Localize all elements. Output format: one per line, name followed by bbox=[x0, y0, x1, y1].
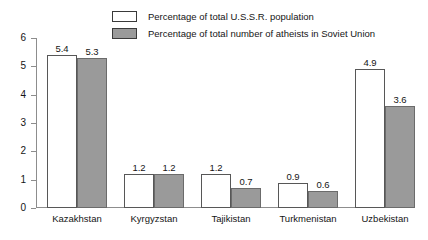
legend-item-population: Percentage of total U.S.S.R. population bbox=[112, 9, 422, 24]
legend-swatch-white bbox=[112, 11, 137, 22]
bar-value-label: 0.6 bbox=[316, 179, 329, 191]
bar-value-label: 4.9 bbox=[363, 57, 376, 69]
x-axis-category-label: Kyrgyzstan bbox=[131, 212, 178, 225]
bar[interactable]: 5.3 bbox=[77, 58, 107, 208]
y-axis-tick-label: 1 bbox=[20, 173, 26, 186]
bar-value-label: 3.6 bbox=[393, 94, 406, 106]
y-axis-tick-label: 2 bbox=[20, 144, 26, 157]
x-axis-category-label: Turkmenistan bbox=[279, 212, 336, 225]
bar-group: 0.90.6 bbox=[278, 38, 338, 208]
bar[interactable]: 0.9 bbox=[278, 183, 308, 209]
y-axis-tick: 0 bbox=[31, 208, 36, 209]
y-axis-tick-label: 6 bbox=[20, 31, 26, 44]
bar[interactable]: 0.6 bbox=[308, 191, 338, 208]
bar-value-label: 5.3 bbox=[85, 46, 98, 58]
bar-groups: 5.45.31.21.21.20.70.90.64.93.6 bbox=[36, 38, 415, 208]
bar[interactable]: 0.7 bbox=[231, 188, 261, 208]
legend-label-population: Percentage of total U.S.S.R. population bbox=[148, 11, 314, 22]
bar[interactable]: 5.4 bbox=[47, 55, 77, 208]
bar-value-label: 1.2 bbox=[162, 162, 175, 174]
x-axis-category-label: Uzbekistan bbox=[362, 212, 409, 225]
y-axis-tick-label: 0 bbox=[20, 201, 26, 214]
x-axis-category-label: Tajikistan bbox=[211, 212, 250, 225]
x-axis-category-labels: KazakhstanKyrgyzstanTajikistanTurkmenist… bbox=[36, 212, 415, 232]
bar-group: 1.21.2 bbox=[124, 38, 184, 208]
bar-group: 5.45.3 bbox=[47, 38, 107, 208]
bar[interactable]: 1.2 bbox=[124, 174, 154, 208]
bar-value-label: 0.7 bbox=[239, 176, 252, 188]
y-axis-tick-label: 3 bbox=[20, 116, 26, 129]
bar-chart: Percentage of total U.S.S.R. population … bbox=[0, 0, 428, 240]
bar[interactable]: 1.2 bbox=[154, 174, 184, 208]
bar[interactable]: 4.9 bbox=[355, 69, 385, 208]
bar-group: 4.93.6 bbox=[355, 38, 415, 208]
y-axis-tick-label: 5 bbox=[20, 59, 26, 72]
bar-value-label: 5.4 bbox=[55, 43, 68, 55]
bar[interactable]: 3.6 bbox=[385, 106, 415, 208]
bar-group: 1.20.7 bbox=[201, 38, 261, 208]
bar[interactable]: 1.2 bbox=[201, 174, 231, 208]
y-axis-tick-label: 4 bbox=[20, 88, 26, 101]
bar-value-label: 1.2 bbox=[209, 162, 222, 174]
bar-value-label: 1.2 bbox=[132, 162, 145, 174]
plot-area: 0123456 5.45.31.21.21.20.70.90.64.93.6 bbox=[36, 38, 415, 208]
bar-value-label: 0.9 bbox=[286, 171, 299, 183]
x-axis-category-label: Kazakhstan bbox=[52, 212, 102, 225]
